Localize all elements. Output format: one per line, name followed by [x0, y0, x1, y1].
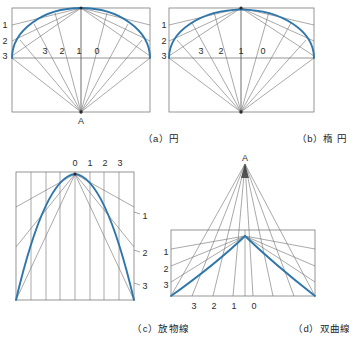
apex-point [239, 110, 242, 113]
division-line [171, 236, 245, 282]
caption-text-b: （b）楕 円 [297, 131, 347, 145]
inner-label-3: 3 [42, 46, 47, 56]
inner-label-1: 1 [238, 46, 243, 56]
left-label-1: 1 [161, 20, 166, 30]
division-line-group [171, 236, 315, 282]
apex-fan-line [16, 174, 75, 207]
apex-ray [12, 58, 81, 112]
apex-ray [34, 24, 81, 112]
right-label-2: 2 [142, 248, 147, 258]
left-label-2: 2 [2, 36, 7, 46]
left-label-2: 2 [163, 264, 168, 274]
apex-fan-line [16, 174, 75, 247]
vertex-chord [241, 8, 314, 41]
inner-label-3: 3 [198, 46, 203, 56]
apex-ray [241, 23, 291, 112]
left-label-3: 3 [2, 51, 7, 61]
right-label-3: 3 [142, 281, 147, 291]
frame-rect [171, 230, 315, 296]
apex-ray [81, 24, 128, 112]
division-line [245, 236, 315, 266]
panel-hyperbola: A 1 2 3 3 2 1 0 [161, 152, 322, 346]
right-label-1: 1 [142, 211, 147, 221]
vertex-chord [81, 8, 150, 25]
apex-ray [81, 58, 150, 112]
bottom-label-0: 0 [251, 301, 256, 311]
apex-fan-line [75, 174, 134, 247]
caption-panel-d: （d）双曲線 [161, 321, 354, 335]
apex-label: A [78, 116, 84, 126]
left-label-3: 3 [161, 51, 166, 61]
apex-fan-line [75, 174, 134, 300]
bottom-label-2: 2 [211, 301, 216, 311]
top-label-0: 0 [72, 158, 77, 168]
bottom-label-3: 3 [191, 301, 196, 311]
top-vertex-point [239, 6, 242, 9]
right-tick [134, 212, 140, 214]
right-tick-group [134, 212, 140, 285]
division-line [171, 236, 245, 266]
top-label-3: 3 [117, 158, 122, 168]
apex-ray [241, 58, 314, 112]
vertex-chord [12, 8, 81, 41]
right-tick [134, 250, 140, 252]
apex-label: A [242, 153, 248, 163]
inner-label-0: 0 [260, 46, 265, 56]
top-vertex-point [79, 6, 82, 9]
right-tick [134, 283, 140, 285]
apex-ray [55, 13, 81, 112]
caption-panel-b: （b）楕 円 [161, 131, 354, 145]
vertex-chord [169, 8, 241, 41]
apex-fan-line [75, 174, 134, 207]
top-label-2: 2 [102, 158, 107, 168]
panel-hyperbola-drawing: A 1 2 3 3 2 1 0 [161, 152, 322, 346]
apex-ray-group [12, 8, 150, 112]
inner-label-2: 2 [218, 46, 223, 56]
apex-fan-line [16, 174, 75, 300]
inner-label-0: 0 [94, 46, 99, 56]
apex-ray [241, 40, 306, 112]
apex-ray [192, 23, 241, 112]
inner-label-2: 2 [59, 46, 64, 56]
panel-parabola-drawing: 0 1 2 3 1 2 3 [0, 152, 161, 346]
left-label-3: 3 [163, 280, 168, 290]
left-label-1: 1 [163, 247, 168, 257]
left-label-2: 2 [161, 36, 166, 46]
apex-point [79, 110, 82, 113]
vertex-chord [12, 8, 81, 25]
caption-text-d: （d）双曲線 [293, 321, 351, 335]
inner-label-1: 1 [76, 46, 81, 56]
apex-ray [81, 13, 107, 112]
panel-parabola: 0 1 2 3 1 2 3 [0, 152, 161, 346]
apex-ray [241, 12, 269, 112]
apex-point [73, 172, 76, 175]
left-label-1: 1 [2, 20, 7, 30]
apex-ray [169, 58, 241, 112]
division-line [245, 236, 315, 282]
vertex-chord [81, 8, 150, 41]
top-label-1: 1 [87, 158, 92, 168]
bottom-label-1: 1 [231, 301, 236, 311]
